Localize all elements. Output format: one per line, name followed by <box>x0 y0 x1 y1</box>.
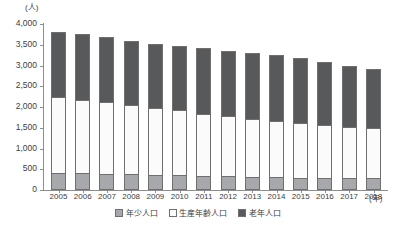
bar-segment-elderly[interactable] <box>99 37 114 102</box>
bar-group[interactable] <box>75 24 90 190</box>
bar-segment-youth[interactable] <box>317 178 332 190</box>
y-axis-unit-label: (人) <box>25 1 38 12</box>
bar-group[interactable] <box>51 24 66 190</box>
legend-swatch-icon <box>115 209 123 217</box>
bar-segment-elderly[interactable] <box>317 62 332 125</box>
bar-segment-elderly[interactable] <box>196 48 211 114</box>
x-axis-label: 2010 <box>172 192 187 206</box>
legend-label: 老年人口 <box>249 207 281 218</box>
bar-segment-youth[interactable] <box>99 174 114 190</box>
plot-area: 4,0003,5003,0002,5002,0001,5001,0005000 <box>44 24 388 190</box>
bar-segment-working-age[interactable] <box>99 102 114 174</box>
bar-segment-working-age[interactable] <box>172 110 187 175</box>
bar-segment-youth[interactable] <box>172 175 187 190</box>
bar-segment-working-age[interactable] <box>245 119 260 177</box>
x-axis-label: 2013 <box>245 192 260 206</box>
bar-segment-elderly[interactable] <box>245 53 260 119</box>
x-axis-label: 2011 <box>196 192 211 206</box>
bar-segment-youth[interactable] <box>148 175 163 190</box>
y-tick-label: 3,500 <box>16 39 37 49</box>
y-tick-label: 1,000 <box>16 143 37 153</box>
bar-segment-elderly[interactable] <box>221 51 236 117</box>
bar-segment-elderly[interactable] <box>51 32 66 97</box>
x-axis-label: 2014 <box>269 192 284 206</box>
x-axis-label: 2016 <box>317 192 332 206</box>
bar-segment-youth[interactable] <box>75 173 90 190</box>
legend-swatch-icon <box>238 209 246 217</box>
bar-segment-youth[interactable] <box>245 177 260 190</box>
y-tick-label: 500 <box>23 163 37 173</box>
x-axis-label: 2017 <box>342 192 357 206</box>
chart-legend: 年少人口生産年齢人口老年人口 <box>0 207 396 218</box>
bar-segment-working-age[interactable] <box>51 97 66 173</box>
legend-item[interactable]: 生産年齢人口 <box>169 207 228 218</box>
bar-group[interactable] <box>317 24 332 190</box>
bar-segment-youth[interactable] <box>366 178 381 190</box>
bar-group[interactable] <box>366 24 381 190</box>
x-axis-labels: 2005200620072008200920102011201220132014… <box>44 192 388 206</box>
x-axis-label: 2006 <box>75 192 90 206</box>
bar-segment-youth[interactable] <box>269 177 284 190</box>
bar-segment-working-age[interactable] <box>75 100 90 174</box>
bar-segment-working-age[interactable] <box>148 108 163 175</box>
bar-group[interactable] <box>293 24 308 190</box>
bar-segment-youth[interactable] <box>124 174 139 190</box>
legend-item[interactable]: 年少人口 <box>115 207 158 218</box>
bar-segment-elderly[interactable] <box>342 66 357 127</box>
legend-label: 生産年齢人口 <box>179 207 227 218</box>
legend-item[interactable]: 老年人口 <box>238 207 281 218</box>
x-axis-label: 2008 <box>124 192 139 206</box>
bar-segment-elderly[interactable] <box>293 58 308 124</box>
bar-group[interactable] <box>124 24 139 190</box>
x-axis-label: 2007 <box>99 192 114 206</box>
x-axis-label: 2015 <box>293 192 308 206</box>
y-tick-mark <box>40 190 44 191</box>
bar-group[interactable] <box>269 24 284 190</box>
bar-segment-elderly[interactable] <box>172 46 187 110</box>
x-axis-label: 2012 <box>221 192 236 206</box>
bar-segment-elderly[interactable] <box>124 41 139 105</box>
bar-segment-elderly[interactable] <box>366 69 381 128</box>
bar-segment-working-age[interactable] <box>342 127 357 178</box>
bar-group[interactable] <box>99 24 114 190</box>
y-tick-label: 4,000 <box>16 18 37 28</box>
y-tick-label: 2,000 <box>16 101 37 111</box>
population-stacked-bar-chart: (人) 4,0003,5003,0002,5002,0001,5001,0005… <box>0 0 396 225</box>
y-tick-label: 0 <box>32 184 37 194</box>
x-axis-line <box>43 190 388 191</box>
y-tick-label: 3,000 <box>16 60 37 70</box>
y-tick-label: 2,500 <box>16 80 37 90</box>
bar-group[interactable] <box>148 24 163 190</box>
bar-segment-working-age[interactable] <box>124 105 139 174</box>
bar-segment-working-age[interactable] <box>196 114 211 176</box>
bar-segment-working-age[interactable] <box>317 125 332 177</box>
bar-group[interactable] <box>342 24 357 190</box>
bar-segment-working-age[interactable] <box>366 128 381 179</box>
bar-segment-youth[interactable] <box>342 178 357 190</box>
legend-swatch-icon <box>169 209 177 217</box>
bar-group[interactable] <box>221 24 236 190</box>
y-tick-label: 1,500 <box>16 122 37 132</box>
bar-segment-youth[interactable] <box>51 173 66 190</box>
x-axis-unit-label: (年) <box>369 192 382 203</box>
x-axis-label: 2009 <box>148 192 163 206</box>
bar-segment-elderly[interactable] <box>75 34 90 99</box>
bar-segment-elderly[interactable] <box>148 44 163 108</box>
x-axis-label: 2005 <box>51 192 66 206</box>
legend-label: 年少人口 <box>126 207 158 218</box>
bar-segment-youth[interactable] <box>196 176 211 190</box>
bar-segment-youth[interactable] <box>221 176 236 190</box>
bar-series-container <box>44 24 388 190</box>
bar-segment-working-age[interactable] <box>293 123 308 177</box>
bar-segment-elderly[interactable] <box>269 55 284 121</box>
bar-group[interactable] <box>172 24 187 190</box>
bar-segment-working-age[interactable] <box>221 116 236 176</box>
bar-segment-youth[interactable] <box>293 178 308 190</box>
bar-group[interactable] <box>196 24 211 190</box>
bar-group[interactable] <box>245 24 260 190</box>
bar-segment-working-age[interactable] <box>269 121 284 177</box>
